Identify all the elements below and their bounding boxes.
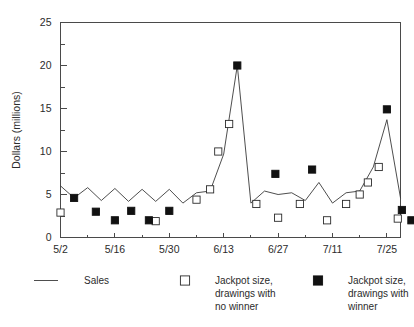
x-tick-label: 6/13 [213, 243, 234, 255]
x-tick-label: 5/30 [159, 243, 180, 255]
jackpot-winner-marker [92, 208, 99, 215]
jackpot-winner-marker [383, 106, 390, 113]
jackpot-winner-marker [272, 170, 279, 177]
jackpot-winner-marker [166, 207, 173, 214]
legend-label-line: Jackpot size, [348, 275, 406, 286]
jackpot-winner-marker [234, 62, 241, 69]
jackpot-winner-marker [145, 217, 152, 224]
legend-label-line: Jackpot size, [215, 275, 273, 286]
jackpot-no-winner-marker [275, 214, 282, 221]
jackpot-no-winner-marker [226, 120, 233, 127]
legend-label-line: drawings with [215, 288, 276, 299]
legend-label-line: winner [347, 301, 378, 312]
y-tick-label: 0 [46, 231, 52, 243]
legend-label-line: drawings with [348, 288, 409, 299]
jackpot-no-winner-marker [296, 200, 303, 207]
jackpot-no-winner-marker [394, 215, 401, 222]
jackpot-winner-marker [71, 194, 78, 201]
jackpot-no-winner-marker [207, 186, 214, 193]
y-tick-label: 20 [40, 59, 52, 71]
legend-label-line: Sales [84, 275, 109, 286]
y-axis-label: Dollars (millions) [10, 91, 22, 169]
y-tick-label: 5 [46, 188, 52, 200]
jackpot-no-winner-marker [193, 196, 200, 203]
jackpot-winner-marker [111, 217, 118, 224]
y-tick-label: 15 [40, 102, 52, 114]
jackpot-no-winner-marker [253, 200, 260, 207]
jackpot-winner-marker [128, 207, 135, 214]
jackpot-no-winner-marker [343, 200, 350, 207]
legend-open-square-swatch [180, 276, 189, 285]
jackpot-no-winner-marker [323, 217, 330, 224]
legend-label-line: no winner [215, 301, 259, 312]
jackpot-no-winner-marker [215, 148, 222, 155]
lottery-sales-jackpot-chart: 0510152025 5/25/165/306/136/277/117/25 D… [0, 0, 414, 327]
jackpot-no-winner-marker [356, 191, 363, 198]
jackpot-no-winner-marker [364, 179, 371, 186]
x-tick-label: 5/16 [105, 243, 126, 255]
x-tick-label: 6/27 [268, 243, 289, 255]
jackpot-winner-marker [309, 166, 316, 173]
legend-filled-square-swatch [313, 276, 322, 285]
y-tick-label: 10 [40, 145, 52, 157]
y-axis-title: Dollars (millions) [10, 91, 22, 169]
chart-container: 0510152025 5/25/165/306/136/277/117/25 D… [0, 0, 414, 327]
x-tick-label: 7/25 [377, 243, 398, 255]
jackpot-no-winner-marker [57, 209, 64, 216]
y-tick-label: 25 [40, 16, 52, 28]
x-tick-label: 5/2 [53, 243, 68, 255]
x-tick-label: 7/11 [323, 243, 343, 255]
jackpot-winner-marker [408, 217, 414, 224]
jackpot-no-winner-marker [152, 218, 159, 225]
jackpot-winner-marker [398, 206, 405, 213]
jackpot-no-winner-marker [375, 163, 382, 170]
